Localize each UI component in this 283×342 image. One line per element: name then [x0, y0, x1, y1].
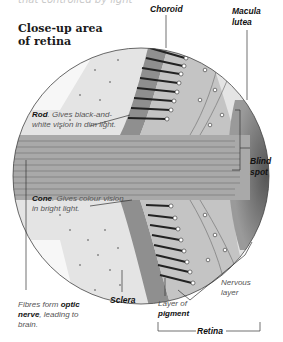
label-nervous-layer: Nervous layer	[221, 278, 261, 298]
rod-term: Rod	[32, 110, 48, 119]
label-cone: Cone. Gives colour vision in bright ligh…	[32, 194, 124, 214]
pigment-prefix: Layer of	[158, 299, 187, 308]
label-optic-nerve: Fibres form optic nerve, leading to brai…	[18, 300, 98, 330]
label-choroid: Choroid	[150, 4, 183, 15]
label-pigment: Layer of pigment	[158, 299, 208, 319]
pigment-term: pigment	[158, 309, 189, 318]
label-blind-spot: Blind spot	[250, 156, 280, 178]
optic-nerve-fibres	[0, 135, 250, 200]
label-sclera: Sclera	[110, 295, 136, 306]
label-rod: Rod. Gives black-and-white vision in dim…	[32, 110, 124, 130]
cone-term: Cone	[32, 194, 52, 203]
label-macula-lutea: Macula lutea	[232, 6, 272, 28]
label-retina: Retina	[197, 326, 223, 337]
fibres-prefix: Fibres form	[18, 300, 61, 309]
